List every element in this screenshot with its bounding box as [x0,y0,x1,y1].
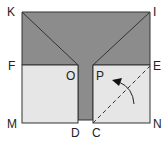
folding-diagram: K I F O P E M D C N [0,0,168,143]
label-I: I [153,5,156,19]
label-P: P [96,69,104,83]
label-O: O [66,69,75,83]
label-C: C [92,126,101,140]
label-D: D [71,126,80,140]
label-N: N [153,117,162,131]
label-E: E [153,59,161,73]
label-M: M [7,117,17,131]
label-F: F [8,59,15,73]
label-K: K [7,5,15,19]
